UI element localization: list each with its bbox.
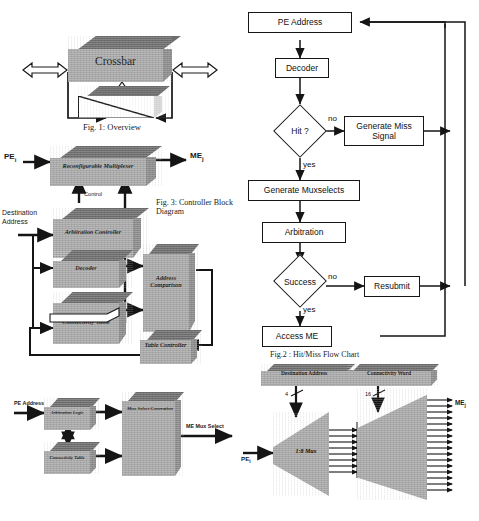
figure-5-mux-fanout: Destination Address Connectivity Word 1:… — [239, 360, 479, 521]
fig5-demux-block — [357, 388, 427, 500]
fig2-success-no-label: no — [328, 272, 337, 281]
fig1-right-bidirectional-arrow — [172, 60, 218, 80]
fig3-control-label: Control — [84, 192, 102, 198]
fig2-node-resubmit[interactable]: Resubmit — [364, 276, 420, 297]
fig3-decoder-label: Decoder — [53, 264, 119, 271]
fig5-connectivity-word-block: Connectivity Word — [347, 364, 439, 386]
fig2-node-generate-miss-signal[interactable]: Generate Miss Signal — [344, 116, 424, 146]
fig2-node-pe-address[interactable]: PE Address — [248, 12, 352, 33]
fig4-mux-select-generation-label: Mux Select Generation — [122, 406, 175, 412]
fig4-connectivity-table-label: Connectivity Table — [44, 455, 90, 460]
fig1-crossbar-label: Crossbar — [68, 55, 163, 68]
fig5-destination-address-label: Destination Address — [261, 370, 347, 376]
fig3-table-controller-block: Table Controller — [140, 330, 202, 364]
fig3-me-output-subscript: j — [202, 156, 204, 162]
fig3-pe-input-label: PEi — [4, 153, 16, 163]
figure-2-hit-miss-flow-chart: PE Address Decoder Hit ? no yes Generate… — [240, 0, 479, 360]
fig2-node-generate-muxselects[interactable]: Generate Muxselects — [248, 180, 360, 201]
fig2-node-arbitration[interactable]: Arbitration — [262, 222, 346, 243]
fig3-pe-input-subscript: i — [15, 157, 17, 163]
fig3-table-drawer-icon — [49, 307, 125, 323]
fig4-me-mux-select-label: ME Mux Select — [186, 424, 224, 429]
fig5-connectivity-word-label: Connectivity Word — [347, 370, 431, 376]
figure-page: Crossbar Fig. 1: Overview — [0, 0, 479, 521]
fig3-decoder-block: Decoder — [53, 250, 133, 288]
fig2-caption: Fig.2 : Hit/Miss Flow Chart — [270, 350, 359, 359]
fig2-node-success-decision[interactable]: Success — [266, 260, 334, 312]
fig2-node-hit-label: Hit ? — [274, 126, 326, 136]
fig1-caption: Fig. 1: Overview — [83, 122, 141, 132]
fig2-node-success-label: Success — [266, 277, 334, 287]
fig3-reconfigurable-multiplexer-label: Reconfigurable Multiplexer — [50, 162, 146, 169]
fig4-pe-address-label: PE Address — [14, 401, 44, 406]
fig3-table-controller-label: Table Controller — [140, 341, 191, 348]
figure-3-controller-block-diagram: Reconfigurable Multiplexer Arbitration C… — [0, 140, 240, 380]
fig3-address-comparison-block: Address Comparison — [143, 244, 199, 332]
fig5-destination-address-block: Destination Address — [261, 364, 355, 386]
fig5-pe-input-label: PEi — [241, 456, 251, 464]
fig3-destination-address-label: Destination Address — [2, 209, 37, 227]
fig2-success-yes-label: yes — [303, 305, 315, 314]
fig3-arbitration-controller-label: Arbitration Controller — [53, 228, 133, 235]
fig3-address-comparison-label: Address Comparison — [143, 274, 189, 288]
fig2-node-hit-decision[interactable]: Hit ? — [274, 105, 326, 157]
fig3-caption: Fig. 3: Controller Block Diagram — [156, 198, 233, 217]
fig2-node-decoder[interactable]: Decoder — [275, 58, 329, 78]
fig1-crossbar-block: Crossbar — [68, 36, 172, 82]
fig5-connectivity-word-bus-width: 16 — [365, 392, 371, 398]
fig4-connectivity-table-block: Connectivity Table — [44, 442, 100, 474]
fig4-arbitration-logic-label: Arbitration Logic — [44, 410, 90, 415]
fig4-mux-select-generation-block: Mux Select Generation — [122, 392, 184, 476]
fig5-destination-address-bus-width: 4 — [285, 392, 288, 398]
fig5-pe-input-subscript: i — [249, 458, 250, 464]
figure-1-overview: Crossbar Fig. 1: Overview — [0, 0, 240, 140]
fig3-reconfigurable-multiplexer-block: Reconfigurable Multiplexer — [50, 146, 162, 186]
figure-4-mux-select-generation: Arbitration Logic Connectivity Table Mux… — [0, 380, 240, 521]
fig2-node-access-me[interactable]: Access ME — [262, 326, 332, 347]
fig5-me-output-label: MEj — [455, 400, 466, 408]
fig2-hit-no-label: no — [328, 114, 337, 123]
fig5-me-output-subscript: j — [465, 402, 466, 408]
fig1-left-bidirectional-arrow — [22, 60, 68, 80]
fig4-arbitration-logic-block: Arbitration Logic — [44, 398, 100, 430]
fig3-connectivity-table-block: Connectivity Table — [53, 292, 133, 344]
fig5-mux-label: 1:8 Mux — [283, 448, 329, 454]
fig2-hit-yes-label: yes — [303, 160, 315, 169]
fig3-me-output-label: MEj — [190, 152, 204, 162]
fig5-mux-block: 1:8 Mux — [273, 412, 329, 496]
fig1-lower-block — [78, 86, 170, 118]
